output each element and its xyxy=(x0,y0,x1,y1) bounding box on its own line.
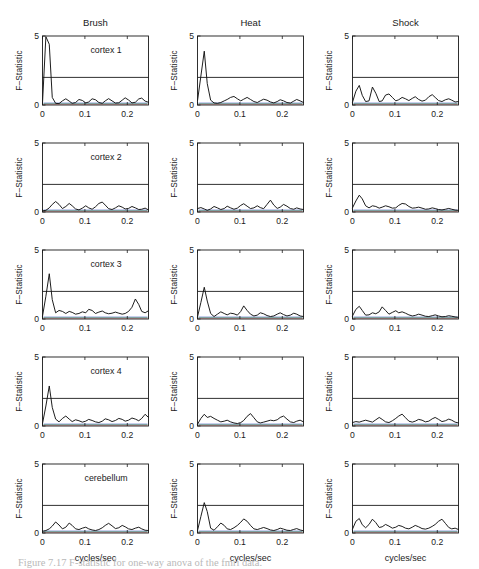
x-tick-label: 0 xyxy=(195,323,200,333)
panel-cortex-1-brush: 0500.10.2F–Statisticcortex 1 xyxy=(15,31,149,118)
x-tick-label: 0.2 xyxy=(276,216,288,226)
x-tick-label: 0 xyxy=(350,430,355,440)
panel-cortex-2-heat: 0500.10.2F–Statistic xyxy=(170,138,304,225)
x-tick-label: 0 xyxy=(350,537,355,547)
y-axis-label: F–Statistic xyxy=(170,264,179,304)
panel-cerebellum-heat: 0500.10.2F–Statisticcycles/sec xyxy=(170,459,304,563)
x-tick-label: 0.2 xyxy=(276,537,288,547)
x-tick-label: 0.1 xyxy=(389,323,401,333)
y-axis-label: F–Statistic xyxy=(325,157,334,197)
x-tick-label: 0.2 xyxy=(121,109,133,119)
y-axis-label: F–Statistic xyxy=(15,157,24,197)
y-tick-label: 0 xyxy=(189,314,194,324)
x-tick-label: 0.1 xyxy=(79,430,91,440)
y-tick-label: 0 xyxy=(34,528,39,538)
y-tick-label: 5 xyxy=(189,138,194,148)
y-tick-label: 5 xyxy=(34,245,39,255)
x-tick-label: 0.1 xyxy=(79,537,91,547)
x-tick-label: 0.2 xyxy=(121,537,133,547)
column-title-brush: Brush xyxy=(83,17,108,28)
axis-box xyxy=(353,250,459,319)
y-tick-label: 5 xyxy=(189,352,194,362)
y-tick-label: 0 xyxy=(189,100,194,110)
x-tick-label: 0.1 xyxy=(389,537,401,547)
y-axis-label: F–Statistic xyxy=(325,264,334,304)
y-tick-label: 5 xyxy=(344,245,349,255)
f-statistic-trace xyxy=(198,503,304,531)
y-tick-label: 0 xyxy=(34,314,39,324)
panel-cortex-3-heat: 0500.10.2F–Statistic xyxy=(170,245,304,332)
f-statistic-trace xyxy=(43,274,149,317)
axis-box xyxy=(198,250,304,319)
y-axis-label: F–Statistic xyxy=(15,50,24,90)
y-tick-label: 0 xyxy=(344,528,349,538)
x-tick-label: 0.1 xyxy=(79,216,91,226)
panel-row-label: cortex 2 xyxy=(90,152,121,162)
y-axis-label: F–Statistic xyxy=(325,478,334,518)
panel-cortex-4-brush: 0500.10.2F–Statisticcortex 4 xyxy=(15,352,149,439)
y-axis-label: F–Statistic xyxy=(170,371,179,411)
panel-cortex-3-shock: 0500.10.2F–Statistic xyxy=(325,245,459,332)
y-axis-label: F–Statistic xyxy=(15,371,24,411)
x-tick-label: 0.2 xyxy=(121,430,133,440)
panel-cerebellum-shock: 0500.10.2F–Statisticcycles/sec xyxy=(325,459,459,563)
x-tick-label: 0 xyxy=(40,537,45,547)
x-tick-label: 0.1 xyxy=(389,109,401,119)
x-tick-label: 0.1 xyxy=(234,109,246,119)
y-tick-label: 5 xyxy=(34,352,39,362)
x-tick-label: 0 xyxy=(40,323,45,333)
panel-cortex-2-brush: 0500.10.2F–Statisticcortex 2 xyxy=(15,138,149,225)
x-tick-label: 0.2 xyxy=(121,323,133,333)
x-tick-label: 0 xyxy=(195,216,200,226)
x-tick-label: 0.1 xyxy=(79,323,91,333)
axis-box xyxy=(353,464,459,533)
panel-row-label: cerebellum xyxy=(85,473,128,483)
x-tick-label: 0 xyxy=(350,323,355,333)
panel-cerebellum-brush: 0500.10.2F–Statisticcerebellumcycles/sec xyxy=(15,459,149,563)
f-statistic-trace xyxy=(198,200,304,210)
x-tick-label: 0.2 xyxy=(431,323,443,333)
axis-box xyxy=(198,464,304,533)
y-axis-label: F–Statistic xyxy=(15,478,24,518)
f-statistic-trace xyxy=(353,306,459,317)
y-axis-label: F–Statistic xyxy=(325,50,334,90)
x-tick-label: 0 xyxy=(40,109,45,119)
f-statistic-trace xyxy=(43,386,149,424)
x-tick-label: 0.1 xyxy=(234,430,246,440)
x-tick-label: 0 xyxy=(350,109,355,119)
y-tick-label: 5 xyxy=(344,459,349,469)
x-tick-label: 0 xyxy=(40,216,45,226)
y-tick-label: 5 xyxy=(34,138,39,148)
column-title-shock: Shock xyxy=(392,17,419,28)
axis-box xyxy=(353,357,459,426)
panel-row-label: cortex 1 xyxy=(90,45,121,55)
y-axis-label: F–Statistic xyxy=(15,264,24,304)
y-tick-label: 0 xyxy=(189,528,194,538)
y-axis-label: F–Statistic xyxy=(170,157,179,197)
y-tick-label: 5 xyxy=(34,459,39,469)
x-tick-label: 0.1 xyxy=(234,537,246,547)
y-tick-label: 0 xyxy=(344,207,349,217)
x-tick-label: 0.2 xyxy=(276,109,288,119)
x-tick-label: 0 xyxy=(195,430,200,440)
y-tick-label: 5 xyxy=(34,31,39,41)
f-statistic-trace xyxy=(353,519,459,530)
y-tick-label: 5 xyxy=(344,138,349,148)
y-tick-label: 5 xyxy=(189,245,194,255)
panel-cortex-2-shock: 0500.10.2F–Statistic xyxy=(325,138,459,225)
f-statistic-trace xyxy=(43,522,149,531)
x-tick-label: 0.1 xyxy=(389,430,401,440)
y-tick-label: 5 xyxy=(344,31,349,41)
y-axis-label: F–Statistic xyxy=(325,371,334,411)
figure-panel-grid: BrushHeatShock0500.10.2F–Statisticcortex… xyxy=(0,0,479,569)
panel-cortex-3-brush: 0500.10.2F–Statisticcortex 3 xyxy=(15,245,149,332)
y-tick-label: 0 xyxy=(189,207,194,217)
y-tick-label: 0 xyxy=(344,421,349,431)
axis-box xyxy=(198,143,304,212)
column-title-heat: Heat xyxy=(240,17,260,28)
f-statistic-trace xyxy=(353,85,459,102)
x-tick-label: 0.2 xyxy=(276,430,288,440)
axis-box xyxy=(353,143,459,212)
f-statistic-trace xyxy=(353,195,459,210)
panel-cortex-4-heat: 0500.10.2F–Statistic xyxy=(170,352,304,439)
